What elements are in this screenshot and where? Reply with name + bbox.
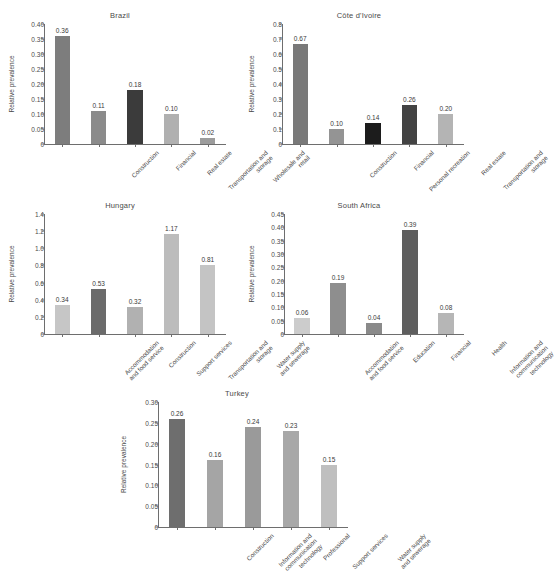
bar-value-label: 0.39 — [404, 221, 417, 228]
y-tick-mark — [41, 39, 44, 40]
y-tick-mark — [41, 231, 44, 232]
bar-value-label: 0.23 — [285, 422, 298, 429]
x-tick-mark — [302, 334, 303, 337]
bar-value-label: 0.32 — [129, 298, 142, 305]
y-tick-mark — [279, 144, 282, 145]
bar-value-label: 0.18 — [129, 81, 142, 88]
x-tick-label: Transportation and storage — [475, 149, 549, 223]
x-tick-mark — [291, 527, 292, 530]
x-tick-mark — [374, 334, 375, 337]
y-tick-mark — [41, 129, 44, 130]
x-tick-mark — [373, 144, 374, 147]
bar — [402, 230, 417, 334]
y-tick-mark — [41, 299, 44, 300]
y-tick-mark — [41, 99, 44, 100]
y-tick-mark — [279, 84, 282, 85]
plot-area-wrapper: Relative prevalence00.050.100.150.200.25… — [0, 10, 240, 200]
bar-value-label: 0.36 — [56, 27, 69, 34]
bar — [55, 36, 70, 144]
bar — [127, 307, 142, 334]
y-tick-mark — [41, 24, 44, 25]
y-tick-mark — [41, 248, 44, 249]
bar-value-label: 0.02 — [201, 129, 214, 136]
y-tick-mark — [281, 214, 284, 215]
bar-value-label: 0.26 — [403, 96, 416, 103]
bar-value-label: 0.20 — [439, 105, 452, 112]
bar — [330, 283, 345, 334]
x-tick-mark — [337, 144, 338, 147]
x-tick-mark — [215, 527, 216, 530]
bar — [200, 265, 215, 334]
bar-value-label: 0.53 — [92, 280, 105, 287]
bar-value-label: 1.17 — [165, 225, 178, 232]
x-tick-mark — [99, 334, 100, 337]
bar-value-label: 0.26 — [171, 410, 184, 417]
bar — [366, 323, 381, 334]
y-tick-mark — [41, 69, 44, 70]
bar — [91, 111, 106, 144]
x-tick-mark — [329, 527, 330, 530]
x-tick-mark — [208, 334, 209, 337]
x-tick-mark — [62, 144, 63, 147]
y-tick-mark — [281, 240, 284, 241]
y-tick-mark — [155, 506, 158, 507]
x-tick-mark — [135, 334, 136, 337]
y-axis-line — [284, 214, 285, 334]
y-tick-mark — [155, 485, 158, 486]
plot-area-wrapper: Relative prevalence00.050.100.150.200.25… — [240, 200, 478, 390]
y-tick-mark — [279, 129, 282, 130]
y-tick-mark — [41, 282, 44, 283]
x-tick-mark — [208, 144, 209, 147]
y-tick-mark — [41, 265, 44, 266]
x-tick-mark — [446, 334, 447, 337]
bar — [164, 234, 179, 334]
y-tick-mark — [155, 422, 158, 423]
y-tick-mark — [281, 307, 284, 308]
bar — [438, 313, 453, 334]
chart-panel-brazil: BrazilRelative prevalence00.050.100.150.… — [0, 10, 240, 21]
plot-area-wrapper: Relative prevalence00.20.40.60.81.01.21.… — [0, 200, 240, 390]
y-tick-mark — [279, 69, 282, 70]
bar-value-label: 0.19 — [332, 274, 345, 281]
bar-value-label: 0.16 — [209, 451, 222, 458]
y-tick-mark — [279, 39, 282, 40]
plot-area-wrapper: Relative prevalence00.050.100.150.200.25… — [112, 388, 362, 580]
x-tick-mark — [171, 334, 172, 337]
y-tick-mark — [279, 99, 282, 100]
bar-value-label: 0.34 — [56, 296, 69, 303]
y-axis-label: Relative prevalence — [248, 214, 255, 334]
x-tick-mark — [177, 527, 178, 530]
x-tick-mark — [99, 144, 100, 147]
x-tick-mark — [171, 144, 172, 147]
x-tick-mark — [135, 144, 136, 147]
chart-panel-c-te-d-ivoire: Côte d'IvoireRelative prevalence00.10.20… — [240, 10, 478, 21]
bar — [91, 289, 106, 334]
bar — [293, 44, 308, 145]
bar-value-label: 0.67 — [294, 35, 307, 42]
chart-panel-south-africa: South AfricaRelative prevalence00.050.10… — [240, 200, 478, 211]
bar-value-label: 0.14 — [367, 114, 380, 121]
y-tick-mark — [41, 214, 44, 215]
y-tick-mark — [155, 443, 158, 444]
y-tick-mark — [279, 24, 282, 25]
bar — [283, 431, 299, 527]
y-tick-mark — [41, 144, 44, 145]
bar — [207, 460, 223, 527]
bar — [402, 105, 417, 144]
x-tick-mark — [410, 334, 411, 337]
bar — [127, 90, 142, 144]
bar-value-label: 0.04 — [368, 314, 381, 321]
chart-panel-hungary: HungaryRelative prevalence00.20.40.60.81… — [0, 200, 240, 211]
y-tick-mark — [41, 114, 44, 115]
y-tick-mark — [155, 464, 158, 465]
y-tick-mark — [41, 54, 44, 55]
y-tick-mark — [41, 84, 44, 85]
x-tick-label: Financial — [403, 339, 472, 408]
y-tick-mark — [281, 334, 284, 335]
y-tick-mark — [281, 280, 284, 281]
bar-value-label: 0.08 — [440, 304, 453, 311]
bar — [294, 318, 309, 334]
x-tick-label: Construction — [206, 532, 275, 580]
y-tick-mark — [281, 227, 284, 228]
y-tick-mark — [279, 54, 282, 55]
